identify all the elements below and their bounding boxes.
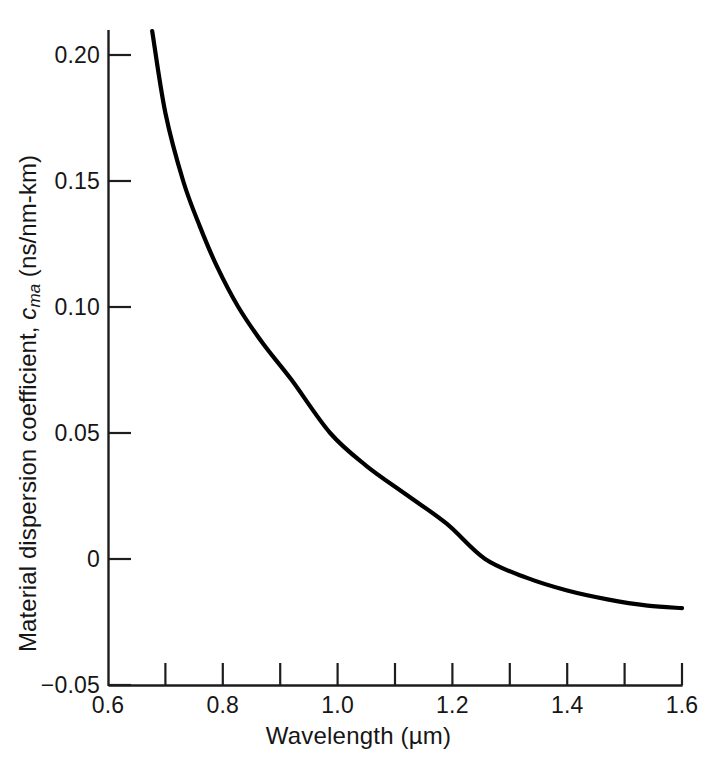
- x-tick-label: 1.0: [321, 692, 354, 719]
- y-axis-title-subscript: ma: [25, 284, 44, 308]
- x-tick-label: 1.6: [666, 692, 699, 719]
- x-tick-label: 0.8: [207, 692, 240, 719]
- y-axis-title-units: (ns/nm-km): [14, 155, 41, 284]
- x-tick-label: 1.4: [551, 692, 584, 719]
- data-curve-material-dispersion: [152, 31, 682, 608]
- x-minor-tick-marks: [165, 663, 624, 686]
- x-tick-label: 1.2: [436, 692, 469, 719]
- y-tick-marks: [109, 55, 132, 685]
- x-axis-title: Wavelength (µm): [0, 722, 717, 750]
- y-tick-label: 0.10: [54, 294, 100, 321]
- y-axis-title: Material dispersion coefficient, cma (ns…: [14, 0, 54, 652]
- chart-figure: −0.0500.050.100.150.20 0.60.81.01.21.41.…: [0, 0, 717, 768]
- y-tick-label: 0.20: [54, 42, 100, 69]
- y-axis-title-lead: Material dispersion coefficient,: [14, 320, 41, 652]
- y-tick-label: 0.05: [54, 420, 100, 447]
- x-tick-marks: [223, 663, 682, 686]
- plot-area: [0, 0, 717, 768]
- y-tick-label: 0: [87, 546, 100, 573]
- y-axis-title-symbol: c: [14, 308, 41, 320]
- x-tick-label: 0.6: [92, 692, 125, 719]
- y-tick-label: 0.15: [54, 168, 100, 195]
